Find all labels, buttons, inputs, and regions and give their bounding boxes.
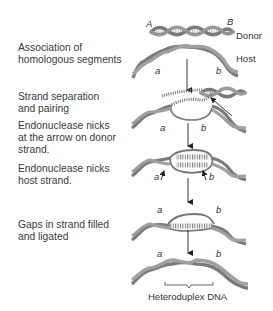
gap-structure — [132, 214, 246, 244]
host-label: Host — [236, 53, 256, 64]
marker-B: B — [227, 16, 234, 27]
host-nick-structure — [132, 150, 246, 180]
heteroduplex-brace — [165, 282, 213, 288]
marker-a: a — [155, 65, 160, 76]
marker-b: b — [201, 122, 206, 133]
heteroduplex-label: Heteroduplex DNA — [148, 291, 228, 302]
marker-b: b — [216, 65, 221, 76]
strand-separation-structure — [132, 88, 246, 132]
marker-a: a — [154, 171, 159, 182]
recombination-diagram: A B Donor Host a b a b — [0, 0, 273, 311]
heteroduplex-helix — [132, 260, 248, 288]
marker-b: b — [216, 204, 221, 215]
marker-a: a — [160, 122, 165, 133]
marker-A: A — [145, 18, 152, 29]
marker-b: b — [216, 248, 221, 259]
nick-arrow-host-right — [203, 171, 206, 180]
marker-a: a — [157, 204, 162, 215]
host-helix — [133, 46, 238, 78]
marker-a: a — [157, 248, 162, 259]
donor-label: Donor — [236, 30, 262, 41]
marker-b: b — [209, 171, 214, 182]
donor-helix — [150, 27, 234, 35]
nick-arrow-host-left — [161, 171, 164, 180]
